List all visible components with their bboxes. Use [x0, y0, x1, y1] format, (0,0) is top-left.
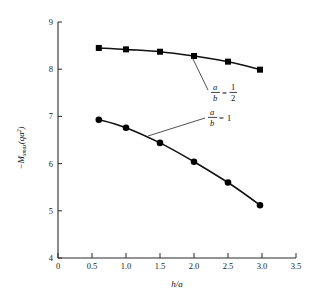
annotation-ab-half-equals: = — [222, 88, 227, 98]
annotation-ab-one-denominator: b — [210, 118, 214, 128]
data-point-square — [157, 49, 163, 55]
y-tick-label: 9 — [49, 17, 53, 27]
data-point-circle — [96, 116, 103, 123]
annotation-ab-half-value-numerator: 1 — [231, 82, 235, 92]
chart-svg: 9 8 7 6 5 4 0 0.5 1.0 1.5 2.0 2.5 3.0 — [0, 0, 317, 303]
x-tick-label: 1.5 — [155, 261, 166, 271]
data-point-square — [225, 59, 231, 65]
annotation-ab-one-equals: = — [219, 113, 224, 123]
y-tick-label: 7 — [49, 111, 53, 121]
data-point-circle — [191, 158, 198, 165]
y-axis-title-sub: xmax — [21, 144, 27, 157]
annotation-ab-half-denominator: b — [213, 93, 217, 103]
x-tick-label: 0 — [56, 261, 60, 271]
data-point-square — [123, 46, 129, 52]
x-tick-label: 0.5 — [87, 261, 98, 271]
x-tick-label: 3.5 — [291, 261, 302, 271]
data-point-circle — [257, 202, 264, 209]
chart-figure: 9 8 7 6 5 4 0 0.5 1.0 1.5 2.0 2.5 3.0 — [0, 0, 317, 303]
data-point-circle — [225, 179, 232, 186]
annotation-ab-one-value: 1 — [227, 113, 231, 123]
x-tick-label: 2.5 — [223, 261, 234, 271]
data-point-square — [257, 67, 263, 73]
svg-text:h/a: h/a — [171, 279, 183, 289]
data-point-circle — [157, 140, 164, 147]
y-tick-label: 8 — [49, 64, 53, 74]
x-tick-label: 3.0 — [257, 261, 268, 271]
data-point-square — [191, 53, 197, 59]
x-axis-title: h/a — [171, 279, 183, 289]
annotation-ab-half-value-denominator: 2 — [231, 93, 235, 103]
data-point-square — [96, 45, 102, 51]
x-tick-label: 2.0 — [189, 261, 200, 271]
data-point-circle — [123, 124, 130, 131]
y-tick-label: 5 — [49, 206, 53, 216]
y-tick-label: 6 — [49, 159, 53, 169]
y-axis-title-close: ) — [16, 126, 26, 130]
x-axis-title-a: a — [178, 279, 183, 289]
annotation-ab-half-numerator: a — [213, 82, 217, 92]
x-tick-label: 1.0 — [121, 261, 132, 271]
annotation-ab-one-numerator: a — [210, 107, 214, 117]
